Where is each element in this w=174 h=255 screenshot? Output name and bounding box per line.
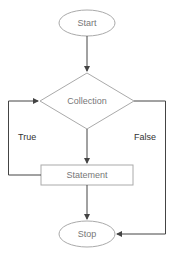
stop-node: Stop <box>59 221 115 247</box>
start-label: Start <box>77 18 97 28</box>
false-label: False <box>134 132 156 142</box>
start-node: Start <box>59 10 115 36</box>
statement-node: Statement <box>41 165 133 185</box>
stop-label: Stop <box>78 229 97 239</box>
collection-label: Collection <box>67 96 107 106</box>
true-label: True <box>18 132 36 142</box>
collection-decision-node: Collection <box>40 73 134 129</box>
statement-label: Statement <box>66 170 108 180</box>
flowchart-canvas: Start Collection Statement True False St… <box>0 0 174 255</box>
